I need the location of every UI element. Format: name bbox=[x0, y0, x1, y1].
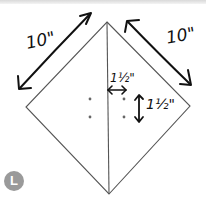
diamond-diagram: 10" 10" 1½" 1½" bbox=[0, 0, 206, 204]
marker-dot bbox=[89, 116, 92, 119]
left-edge-label: 10" bbox=[24, 27, 57, 53]
marker-dot bbox=[123, 116, 126, 119]
vertical-spacing-label: 1½" bbox=[146, 96, 175, 112]
step-letter-badge: L bbox=[4, 171, 24, 191]
horizontal-offset-label: 1½" bbox=[110, 71, 135, 85]
center-seam-line bbox=[107, 22, 109, 194]
horizontal-offset-arrow bbox=[108, 86, 126, 94]
marker-dot bbox=[123, 98, 126, 101]
right-edge-label: 10" bbox=[164, 23, 196, 48]
marker-dot bbox=[89, 98, 92, 101]
vertical-spacing-arrow bbox=[135, 95, 143, 122]
